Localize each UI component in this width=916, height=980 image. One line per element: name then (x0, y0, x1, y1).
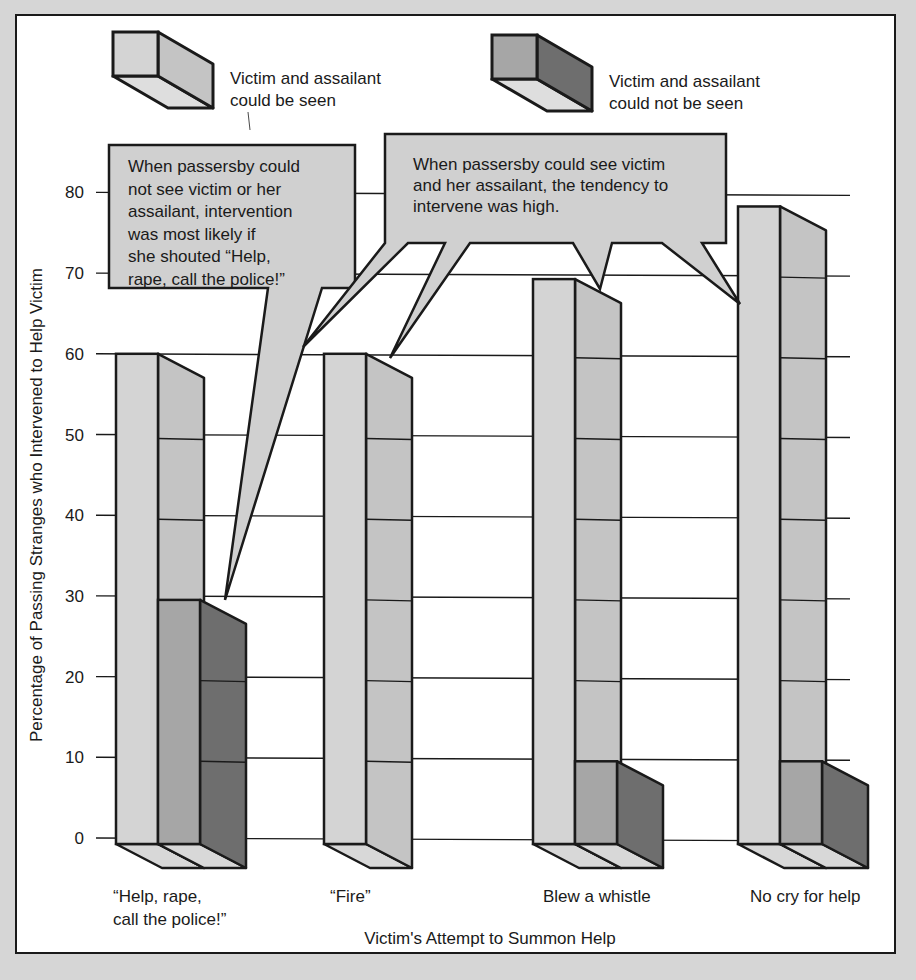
bar-gridline (200, 681, 246, 682)
y-tick-label: 10 (65, 748, 84, 767)
legend: Victim and assailantcould be seenVictim … (113, 32, 760, 113)
legend-swatch-front (492, 35, 537, 79)
bar-front-face (158, 600, 200, 844)
callout-seen-text: When passersby could see victim (413, 155, 665, 174)
bar-gridline (158, 439, 204, 440)
bar-group (738, 206, 868, 868)
bar-gridline (780, 600, 826, 601)
callout-seen-text: intervene was high. (413, 197, 559, 216)
legend-label: Victim and assailant (230, 69, 381, 88)
legend-item: Victim and assailantcould be seen (113, 32, 381, 110)
bar-gridline (780, 277, 826, 278)
bar-seen (324, 354, 412, 868)
bar-not-seen (780, 761, 868, 868)
bar-gridline (575, 681, 621, 682)
bar-gridline (780, 358, 826, 359)
leader-line (248, 112, 250, 130)
bar-gridline (780, 681, 826, 682)
callout-seen: When passersby could see victimand her a… (303, 134, 740, 358)
x-tick-label: No cry for help (750, 887, 861, 906)
bar-gridline (366, 761, 412, 762)
legend-label: could not be seen (609, 94, 743, 113)
x-axis-title: Victim's Attempt to Summon Help (364, 929, 615, 948)
legend-label: Victim and assailant (609, 72, 760, 91)
x-tick-label: “Fire” (330, 887, 371, 906)
y-axis-title: Percentage of Passing Stranges who Inter… (27, 268, 46, 742)
legend-label: could be seen (230, 91, 336, 110)
y-tick-label: 20 (65, 668, 84, 687)
x-axis: “Help, rape,call the police!”“Fire”Blew … (113, 887, 861, 929)
bar-front-face (738, 206, 780, 844)
bar-side-face (200, 600, 246, 868)
y-axis: 01020304050607080 (65, 183, 84, 848)
bar-group (116, 354, 246, 868)
bar-side-face (366, 354, 412, 868)
y-tick-label: 30 (65, 587, 84, 606)
x-tick-label: “Help, rape, (113, 887, 202, 906)
x-tick-label: Blew a whistle (543, 887, 651, 906)
legend-swatch-front (113, 32, 158, 76)
callout-not-seen-text: she shouted “Help, (128, 247, 271, 266)
callout-not-seen-text: not see victim or her (128, 180, 281, 199)
bar-gridline (780, 519, 826, 520)
x-tick-label: call the police!” (113, 910, 227, 929)
bars (116, 206, 868, 868)
bar-gridline (575, 600, 621, 601)
bar-group (533, 279, 663, 868)
bar-gridline (366, 600, 412, 601)
y-tick-label: 60 (65, 345, 84, 364)
y-tick-label: 50 (65, 426, 84, 445)
bar-chart: 01020304050607080 When passersby couldno… (0, 0, 916, 980)
bar-not-seen (158, 600, 246, 868)
y-tick-label: 40 (65, 506, 84, 525)
bar-gridline (780, 439, 826, 440)
bar-gridline (366, 519, 412, 520)
callout-not-seen-text: was most likely if (127, 225, 256, 244)
bar-gridline (200, 761, 246, 762)
bar-gridline (575, 358, 621, 359)
bar-gridline (158, 519, 204, 520)
bar-group (324, 354, 412, 868)
callout-seen-text: and her assailant, the tendency to (413, 176, 668, 195)
bar-front-face (116, 354, 158, 844)
bar-gridline (575, 519, 621, 520)
callout-not-seen-text: assailant, intervention (128, 202, 292, 221)
y-tick-label: 80 (65, 183, 84, 202)
bar-gridline (575, 439, 621, 440)
legend-item: Victim and assailantcould not be seen (492, 35, 760, 113)
bar-front-face (324, 354, 366, 844)
callout-not-seen-text: When passersby could (128, 157, 300, 176)
callout-not-seen-text: rape, call the police!” (128, 270, 285, 289)
bar-gridline (366, 681, 412, 682)
bar-not-seen (575, 761, 663, 868)
y-tick-label: 0 (75, 829, 84, 848)
bar-front-face (533, 279, 575, 844)
bar-front-face (575, 761, 617, 844)
bar-gridline (366, 439, 412, 440)
y-tick-label: 70 (65, 264, 84, 283)
bar-front-face (780, 761, 822, 844)
